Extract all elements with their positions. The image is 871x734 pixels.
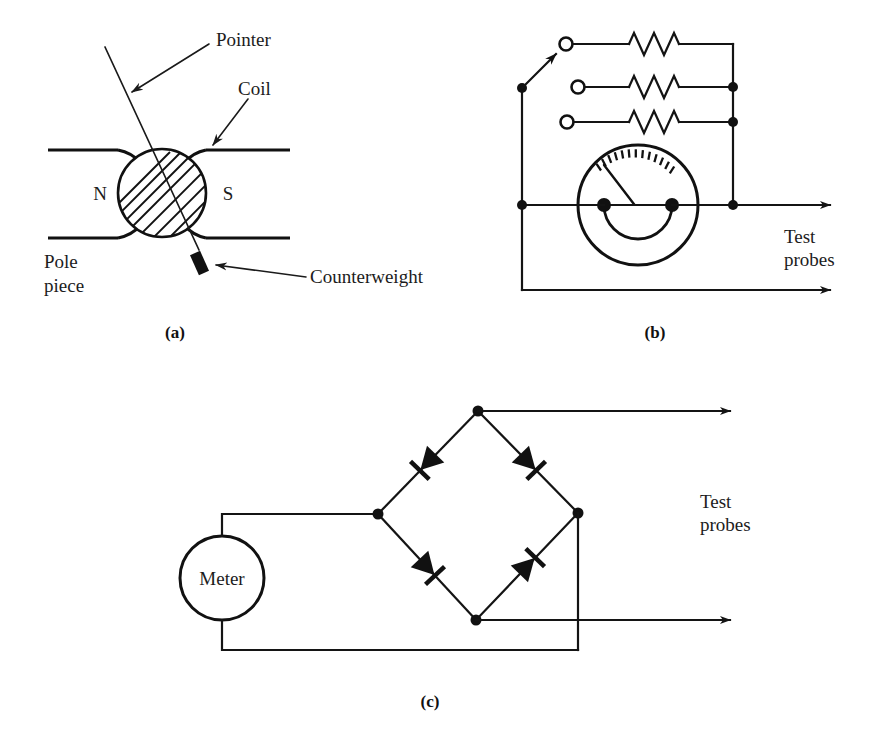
panel-a-galvanometer-movement: N S Pointer Coil Counterweight Pole piec… [44, 29, 424, 342]
range-branch-2 [585, 76, 733, 98]
right-rail-node-2 [728, 82, 738, 92]
switch-contact-3[interactable] [561, 116, 574, 129]
panel-b-caption: (b) [645, 323, 666, 342]
pole-piece-label-line2: piece [44, 275, 84, 296]
pointer-leader-line [132, 44, 209, 92]
resistor-3 [629, 111, 679, 133]
bridge-diamond [378, 411, 578, 620]
coil-leader-line [213, 99, 248, 145]
north-pole-label: N [93, 183, 107, 204]
resistor-2 [629, 76, 679, 98]
resistor-1 [629, 33, 679, 55]
range-branch-3 [574, 111, 733, 133]
figure-root: N S Pointer Coil Counterweight Pole piec… [0, 0, 871, 734]
counterweight-leader-line [216, 265, 306, 277]
panel-a-caption: (a) [165, 323, 185, 342]
counterweight-block [190, 251, 209, 276]
panel-c-test-probes-line1: Test [700, 491, 732, 512]
range-branch-1 [573, 33, 733, 55]
pointer-label: Pointer [216, 29, 272, 50]
meter-top-wire [222, 514, 378, 536]
panel-b-test-probes-line1: Test [784, 226, 816, 247]
bridge-node-left [373, 509, 384, 520]
panel-c-caption: (c) [421, 692, 440, 711]
counterweight-label: Counterweight [310, 266, 424, 287]
meter-bottom-wire [222, 620, 578, 650]
panel-c-test-probes-line2: probes [700, 514, 751, 535]
panel-b-test-probes-line2: probes [784, 249, 835, 270]
right-rail-node-3 [728, 117, 738, 127]
switch-arm [522, 54, 556, 88]
left-rail-probe-node [517, 200, 527, 210]
south-pole-label: S [223, 183, 234, 204]
figure-canvas: N S Pointer Coil Counterweight Pole piec… [0, 0, 871, 734]
coil-label: Coil [238, 78, 271, 99]
panel-c-bridge-rectifier-meter: Meter [180, 406, 751, 712]
panel-b-multirange-ohmmeter: Test probes (b) [517, 33, 835, 342]
switch-contact-2[interactable] [572, 81, 585, 94]
meter-label: Meter [199, 568, 245, 589]
pole-piece-label-line1: Pole [44, 251, 78, 272]
switch-contact-1[interactable] [560, 38, 573, 51]
